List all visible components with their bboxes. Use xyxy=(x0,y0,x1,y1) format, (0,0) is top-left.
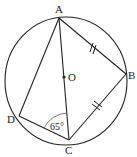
label-o: O xyxy=(68,71,76,83)
segment-bc xyxy=(69,74,126,140)
label-b: B xyxy=(128,69,135,81)
label-d: D xyxy=(7,113,15,125)
geometry-diagram: A B C D O 65° xyxy=(0,0,137,157)
circle xyxy=(5,17,127,145)
angle-label: 65° xyxy=(50,121,64,132)
equal-mark-bc xyxy=(92,101,102,110)
center-point xyxy=(62,75,65,78)
label-a: A xyxy=(55,3,63,15)
segment-da xyxy=(19,18,59,116)
label-c: C xyxy=(65,144,72,156)
